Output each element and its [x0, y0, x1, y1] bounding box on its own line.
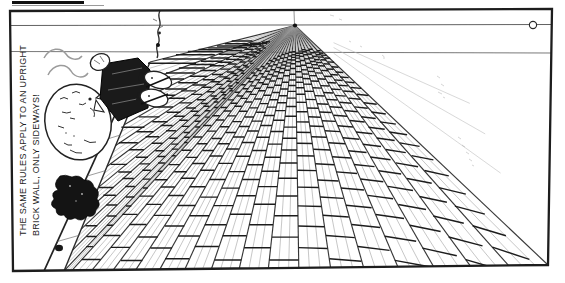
horizon-marker-circle [529, 21, 536, 28]
perspective-wall-drawing [0, 0, 565, 283]
caption-line-2: BRICK WALL, ONLY SIDEWAYS! [30, 44, 43, 236]
vanishing-point [293, 23, 297, 27]
comic-panel-page: THE SAME RULES APPLY TO AN UPRIGHT BRICK… [0, 0, 565, 283]
rope-squiggle [153, 11, 163, 58]
smoke-curls [44, 49, 88, 77]
small-stone [55, 245, 63, 252]
caption-lettering: THE SAME RULES APPLY TO AN UPRIGHT BRICK… [17, 44, 42, 236]
caption-line-1: THE SAME RULES APPLY TO AN UPRIGHT [17, 44, 30, 236]
